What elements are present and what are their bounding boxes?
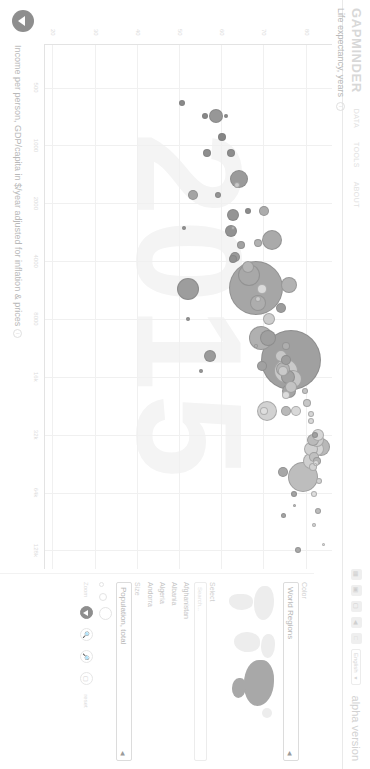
chart-bubble[interactable] bbox=[281, 513, 286, 518]
x-axis-tick: 32k bbox=[33, 430, 39, 440]
chart-bubble[interactable] bbox=[227, 149, 235, 157]
map-region-americas[interactable] bbox=[254, 586, 274, 620]
chart-bubble[interactable] bbox=[188, 190, 198, 200]
map-region-africa[interactable] bbox=[234, 632, 260, 652]
x-axis-title-text: Income per person, GDP/capita in $/year … bbox=[13, 45, 23, 326]
info-icon[interactable]: i bbox=[13, 329, 22, 338]
zoom-out-icon[interactable]: 🔎 bbox=[80, 650, 93, 663]
chart-bubble[interactable] bbox=[202, 113, 208, 119]
gapminder-logo[interactable]: GAPMINDER bbox=[349, 8, 364, 93]
chart-bubble[interactable] bbox=[308, 411, 314, 417]
list-item[interactable]: Afghanistan bbox=[183, 582, 190, 761]
chart-bubble[interactable] bbox=[315, 508, 321, 514]
y-gridline bbox=[137, 45, 138, 569]
chart-bubble[interactable] bbox=[237, 241, 245, 249]
map-region-oceania-selected[interactable] bbox=[232, 678, 246, 698]
chart-bubble[interactable] bbox=[263, 313, 275, 325]
x-gridline bbox=[45, 435, 332, 436]
chart-bubble[interactable] bbox=[234, 182, 240, 188]
fullscreen-icon[interactable]: □ bbox=[351, 633, 362, 644]
chart-bubble[interactable] bbox=[311, 491, 317, 497]
color-select[interactable]: World Regions ◀ bbox=[283, 582, 299, 761]
chart-bubble[interactable] bbox=[281, 355, 291, 365]
chart-bubble[interactable] bbox=[218, 133, 226, 141]
chart-bubble[interactable] bbox=[179, 100, 185, 106]
chart-bubble[interactable] bbox=[178, 278, 200, 300]
chart-bubble[interactable] bbox=[262, 230, 282, 250]
chart-bubble[interactable] bbox=[254, 344, 258, 348]
y-axis-title[interactable]: Life expectancy, years i bbox=[336, 8, 346, 111]
chart-bubble[interactable] bbox=[295, 547, 301, 553]
share-icon[interactable]: ◀ bbox=[351, 617, 362, 628]
size-select-value: Population, total bbox=[120, 587, 129, 644]
list-item[interactable]: Albania bbox=[171, 582, 178, 761]
chart-bubble[interactable] bbox=[316, 478, 322, 484]
map-region-asia-selected[interactable] bbox=[244, 660, 274, 706]
chart-bubble[interactable] bbox=[242, 261, 254, 273]
chart-bubble[interactable] bbox=[260, 330, 276, 346]
chart-bubble[interactable] bbox=[259, 206, 269, 216]
chart-bubble[interactable] bbox=[204, 350, 216, 362]
chart-bubble[interactable] bbox=[291, 491, 297, 497]
country-search-input[interactable]: Search... bbox=[194, 582, 207, 761]
nav-item-data[interactable]: DATA bbox=[353, 109, 360, 128]
language-selector[interactable]: English ▼ bbox=[352, 649, 362, 685]
select-control-label: Select bbox=[209, 582, 216, 761]
chart-bubble[interactable] bbox=[225, 114, 229, 118]
play-icon bbox=[19, 16, 26, 26]
image-icon[interactable]: ▢ bbox=[351, 601, 362, 612]
chart-bubble[interactable] bbox=[293, 504, 296, 507]
chart-bubble[interactable] bbox=[302, 388, 308, 394]
chart-bubble[interactable] bbox=[312, 432, 318, 438]
country-search-placeholder: Search... bbox=[198, 587, 204, 611]
y-gridline bbox=[221, 45, 222, 569]
chart-bubble[interactable] bbox=[282, 342, 290, 350]
x-axis-tick: 500 bbox=[33, 83, 39, 93]
zoom-control-label: Zoom bbox=[84, 582, 90, 597]
x-axis-tick: 64k bbox=[33, 488, 39, 498]
chart-bubble[interactable] bbox=[312, 523, 316, 527]
x-axis-title[interactable]: Income per person, GDP/capita in $/year … bbox=[13, 45, 23, 338]
x-gridline bbox=[45, 493, 332, 494]
country-list: Afghanistan Albania Algeria Andorra bbox=[147, 582, 190, 761]
world-map-legend[interactable] bbox=[220, 582, 280, 761]
chart-bubble[interactable] bbox=[303, 399, 311, 407]
size-legend bbox=[99, 582, 112, 761]
chart-bubble[interactable] bbox=[278, 467, 288, 477]
save-icon[interactable]: ▣ bbox=[351, 585, 362, 596]
play-button[interactable] bbox=[12, 10, 34, 32]
nav-item-tools[interactable]: TOOLS bbox=[353, 142, 360, 168]
pan-hand-icon[interactable] bbox=[80, 606, 93, 619]
chart-bubble[interactable] bbox=[182, 226, 186, 230]
chart-bubble[interactable] bbox=[282, 391, 290, 399]
chart-bubble[interactable] bbox=[281, 277, 297, 293]
size-select[interactable]: Population, total ◀ bbox=[116, 582, 132, 761]
chart-bubble[interactable] bbox=[215, 192, 221, 198]
chart-bubble[interactable] bbox=[229, 255, 237, 263]
zoom-in-icon[interactable]: 🔍 bbox=[80, 628, 93, 641]
map-region-europe[interactable] bbox=[261, 634, 275, 658]
language-label: English bbox=[354, 653, 360, 673]
map-region-south-america[interactable] bbox=[229, 594, 253, 610]
list-item[interactable]: Andorra bbox=[147, 582, 154, 761]
chart-bubble[interactable] bbox=[199, 369, 203, 373]
chart-bubble[interactable] bbox=[245, 208, 251, 214]
chart-bubble[interactable] bbox=[281, 406, 291, 416]
chart-bubble[interactable] bbox=[308, 418, 314, 424]
chart-bubble[interactable] bbox=[291, 406, 301, 416]
chart-bubble[interactable] bbox=[209, 109, 223, 123]
chart-bubble[interactable] bbox=[276, 303, 286, 313]
grid-icon[interactable]: ▦ bbox=[351, 569, 362, 580]
list-item[interactable]: Algeria bbox=[159, 582, 166, 761]
nav-item-about[interactable]: ABOUT bbox=[353, 182, 360, 208]
bubble-chart-plot[interactable]: 2015 500100020004000800016k32k64k128k203… bbox=[44, 44, 332, 569]
chart-bubble[interactable] bbox=[254, 239, 262, 247]
reset-icon[interactable]: ▢ bbox=[80, 672, 93, 685]
chart-bubble[interactable] bbox=[322, 543, 325, 546]
chart-bubble[interactable] bbox=[227, 209, 239, 221]
zoom-control: Zoom 🔍 🔎 ▢ reset bbox=[80, 582, 93, 761]
chart-bubble[interactable] bbox=[204, 149, 212, 157]
map-region-east-asia[interactable] bbox=[262, 708, 272, 718]
chart-bubble[interactable] bbox=[187, 317, 191, 321]
info-icon[interactable]: i bbox=[336, 102, 345, 111]
